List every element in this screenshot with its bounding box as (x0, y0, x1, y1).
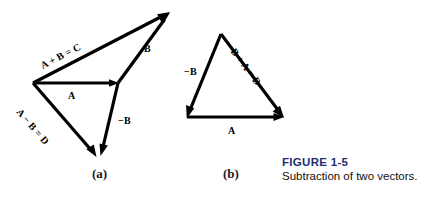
panel-a-vectors (33, 12, 170, 157)
label-a-panel-a: A (68, 91, 75, 101)
vector-negative-b-panel-a (100, 83, 119, 156)
vector-a-panel-b (187, 113, 284, 121)
panel-label-a: (a) (92, 166, 107, 182)
figure-caption: FIGURE 1-5 Subtraction of two vectors. (282, 156, 442, 184)
figure-container: A + B = C A B −B A − B = D (a) −B A −B +… (0, 0, 446, 202)
figure-caption-title: FIGURE 1-5 (282, 156, 442, 169)
label-b-panel-a: B (144, 44, 151, 54)
panel-label-b: (b) (223, 166, 239, 182)
label-negative-b-panel-a: −B (118, 116, 131, 126)
label-negative-b-panel-b: −B (184, 67, 197, 77)
figure-caption-text: Subtraction of two vectors. (282, 170, 442, 184)
label-a-panel-b: A (228, 126, 235, 136)
vector-a-panel-a (33, 79, 119, 87)
